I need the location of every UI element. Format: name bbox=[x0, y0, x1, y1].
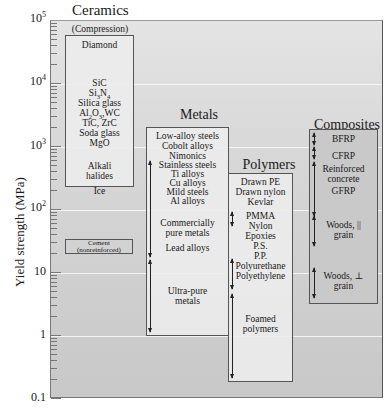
y-minor-tick bbox=[51, 282, 57, 283]
material-sic: SiC bbox=[66, 78, 133, 88]
y-minor-tick bbox=[51, 360, 57, 361]
y-minor-tick bbox=[51, 26, 57, 27]
y-tick-1e5: 105 bbox=[30, 10, 46, 26]
y-minor-tick bbox=[51, 291, 57, 292]
material-drawn-pe: Drawn PE bbox=[229, 177, 292, 187]
y-minor-tick bbox=[51, 338, 57, 339]
y-minor-tick bbox=[51, 171, 57, 172]
y-tick-1e3: 103 bbox=[30, 137, 46, 153]
y-minor-tick bbox=[51, 86, 57, 87]
material-commercially: Commercially bbox=[147, 218, 228, 228]
range-arrow bbox=[314, 147, 315, 159]
ceramics-title: Ceramics bbox=[72, 2, 129, 19]
y-minor-tick bbox=[51, 149, 57, 150]
y-minor-tick bbox=[51, 379, 57, 380]
material-halides: halides bbox=[66, 171, 133, 181]
y-minor-tick bbox=[51, 242, 57, 243]
y-tick-10: 10 bbox=[34, 264, 46, 279]
range-arrow bbox=[314, 268, 315, 298]
material-woods-perp: Woods, ⊥ bbox=[310, 271, 377, 281]
range-arrow bbox=[232, 212, 233, 226]
range-arrow bbox=[150, 260, 151, 332]
y-minor-tick bbox=[51, 272, 61, 273]
y-minor-tick bbox=[51, 215, 57, 216]
range-arrow bbox=[232, 259, 233, 289]
y-minor-tick bbox=[51, 297, 57, 298]
material-cement-sub: (nonreinforced) bbox=[66, 246, 132, 254]
y-minor-tick bbox=[51, 160, 57, 161]
material-gfrp: GFRP bbox=[310, 186, 377, 196]
material-woods-perp-grain: grain bbox=[310, 281, 377, 291]
y-minor-tick bbox=[51, 152, 57, 153]
material-mgo: MgO bbox=[66, 138, 133, 148]
y-minor-tick bbox=[51, 83, 61, 84]
y-minor-tick bbox=[51, 286, 57, 287]
material-diamond: Diamond bbox=[66, 40, 133, 50]
material-bfrp: BFRP bbox=[310, 134, 377, 144]
material-woods-parallel: Woods, || bbox=[310, 220, 377, 230]
material-tic-zrc: TiC, ZrC bbox=[66, 118, 133, 128]
metals-box: Low-alloy steels Cobolt alloys Nimonics … bbox=[146, 127, 229, 336]
y-minor-tick bbox=[51, 345, 57, 346]
y-minor-tick bbox=[51, 93, 57, 94]
y-minor-tick bbox=[51, 116, 57, 117]
y-minor-tick bbox=[51, 127, 57, 128]
material-nylon: Nylon bbox=[229, 221, 292, 231]
y-minor-tick bbox=[51, 228, 57, 229]
polymers-box: Drawn PE Drawn nylon Kevlar PMMA Nylon E… bbox=[228, 173, 293, 382]
material-soda-glass: Soda glass bbox=[66, 128, 133, 138]
metals-title: Metals bbox=[159, 107, 239, 123]
range-arrow bbox=[314, 133, 315, 145]
y-minor-tick bbox=[51, 165, 57, 166]
material-ice: Ice bbox=[66, 186, 133, 196]
y-axis-title: Yield strength (MPa) bbox=[12, 172, 28, 292]
y-minor-tick bbox=[51, 349, 57, 350]
material-polyethylene: Polyethylene bbox=[229, 271, 292, 281]
material-polyurethane: Polyurethane bbox=[229, 261, 292, 271]
y-minor-tick bbox=[51, 64, 57, 65]
material-ps: P.S. bbox=[229, 241, 292, 251]
material-kevlar: Kevlar bbox=[229, 197, 292, 207]
material-cfrp: CFRP bbox=[310, 151, 377, 161]
material-foamed-polymers: polymers bbox=[229, 324, 292, 334]
material-pp: P.P. bbox=[229, 251, 292, 261]
material-lead-alloys: Lead alloys bbox=[147, 243, 228, 253]
y-minor-tick bbox=[51, 108, 57, 109]
material-low-alloy-steels: Low-alloy steels bbox=[147, 131, 228, 141]
material-epoxies: Epoxies bbox=[229, 231, 292, 241]
y-tick-1e2: 102 bbox=[30, 199, 46, 215]
polymers-title: Polymers bbox=[234, 157, 304, 173]
y-minor-tick bbox=[51, 89, 57, 90]
y-minor-tick bbox=[51, 179, 57, 180]
y-minor-tick bbox=[51, 156, 57, 157]
y-tick-1: 1 bbox=[40, 327, 46, 342]
material-foamed: Foamed bbox=[229, 314, 292, 324]
material-ultra-pure-metals: metals bbox=[147, 296, 228, 306]
material-reinforced: Reinforced bbox=[310, 164, 377, 174]
y-minor-tick bbox=[51, 253, 57, 254]
y-minor-tick bbox=[51, 30, 57, 31]
ceramics-box: Diamond SiC Si3N4 Silica glass Al2O3,WC … bbox=[65, 35, 134, 187]
y-minor-tick bbox=[51, 398, 61, 399]
y-minor-tick bbox=[51, 278, 57, 279]
range-arrow bbox=[232, 294, 233, 378]
y-minor-tick bbox=[51, 223, 57, 224]
y-minor-tick bbox=[51, 45, 57, 46]
material-al-alloys: Al alloys bbox=[147, 196, 228, 206]
y-minor-tick bbox=[51, 102, 57, 103]
range-arrow bbox=[314, 162, 315, 216]
y-minor-tick bbox=[51, 368, 57, 369]
material-pmma: PMMA bbox=[229, 211, 292, 221]
y-minor-tick bbox=[51, 146, 61, 147]
y-minor-tick bbox=[51, 305, 57, 306]
y-minor-tick bbox=[51, 97, 57, 98]
y-minor-tick bbox=[51, 335, 61, 336]
y-minor-tick bbox=[51, 39, 57, 40]
y-minor-tick bbox=[51, 316, 57, 317]
material-drawn-nylon: Drawn nylon bbox=[229, 187, 292, 197]
material-cobolt-alloys: Cobolt alloys bbox=[147, 141, 228, 151]
material-concrete: concrete bbox=[310, 174, 377, 184]
y-minor-tick bbox=[51, 53, 57, 54]
y-minor-tick bbox=[51, 212, 57, 213]
y-tick-1e4: 104 bbox=[30, 73, 46, 89]
